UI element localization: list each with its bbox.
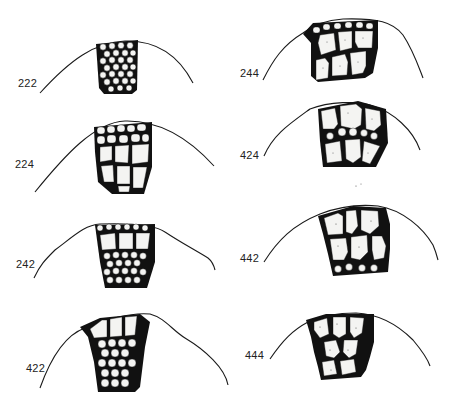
panel-442: 442 bbox=[228, 200, 457, 300]
panel-244: 244 bbox=[228, 0, 457, 100]
panel-label-224: 224 bbox=[15, 158, 34, 170]
cell-tissue bbox=[96, 40, 138, 94]
apex-diagram-424 bbox=[228, 100, 457, 200]
apex-diagram-224 bbox=[0, 100, 228, 200]
apex-diagram-442 bbox=[228, 200, 457, 300]
panel-label-444: 444 bbox=[245, 349, 264, 361]
apex-diagram-422 bbox=[0, 300, 228, 410]
cell-tissue bbox=[95, 224, 155, 288]
cell-rows bbox=[321, 104, 381, 164]
apex-diagram-242 bbox=[0, 200, 228, 300]
cell-tissue bbox=[80, 314, 150, 392]
panel-242: 242 bbox=[0, 200, 228, 300]
panel-224: 224 bbox=[0, 100, 228, 200]
cell-tissue bbox=[303, 20, 378, 82]
cell-tissue bbox=[318, 206, 390, 276]
panel-label-222: 222 bbox=[18, 77, 37, 89]
panel-label-424: 424 bbox=[240, 149, 259, 161]
cell-tissue bbox=[94, 122, 152, 194]
apex-diagram-244 bbox=[228, 0, 457, 100]
panel-422: 422 bbox=[0, 300, 228, 410]
speck-marks bbox=[355, 184, 361, 187]
panel-label-422: 422 bbox=[26, 362, 45, 374]
panel-424: 424 bbox=[228, 100, 457, 200]
panel-label-442: 442 bbox=[240, 252, 259, 264]
cell-tissue bbox=[306, 314, 374, 380]
cell-tissue bbox=[318, 101, 388, 167]
panel-222: 222 bbox=[0, 0, 228, 100]
panel-label-244: 244 bbox=[240, 67, 259, 79]
panel-label-242: 242 bbox=[16, 258, 35, 270]
panel-444: 444 bbox=[228, 300, 457, 410]
